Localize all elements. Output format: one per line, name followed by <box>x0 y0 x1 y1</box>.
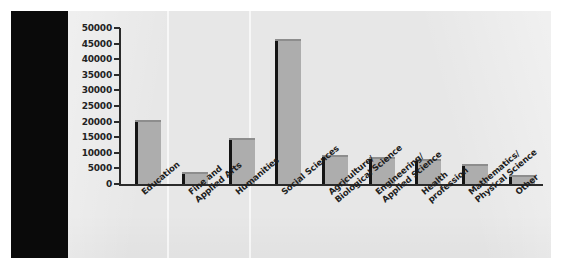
bar-top-edge <box>462 164 488 166</box>
y-axis-tick-mark <box>114 136 120 138</box>
y-axis-tick-mark <box>114 152 120 154</box>
y-axis-tick-mark <box>114 89 120 91</box>
y-axis-tick-mark <box>114 27 120 29</box>
bar-chart: 5000045000400003500030000250002000015000… <box>68 11 551 258</box>
bar-top-edge <box>135 120 161 122</box>
y-axis-tick-mark <box>114 183 120 185</box>
scan-artifact-block <box>11 11 68 258</box>
bar-top-edge <box>275 39 301 41</box>
y-axis-tick-mark <box>114 121 120 123</box>
y-axis-tick-mark <box>114 43 120 45</box>
y-axis-tick-mark <box>114 167 120 169</box>
y-axis-tick-mark <box>114 105 120 107</box>
y-axis-tick-mark <box>114 58 120 60</box>
y-axis-tick-mark <box>114 74 120 76</box>
bar-top-edge <box>229 138 255 140</box>
